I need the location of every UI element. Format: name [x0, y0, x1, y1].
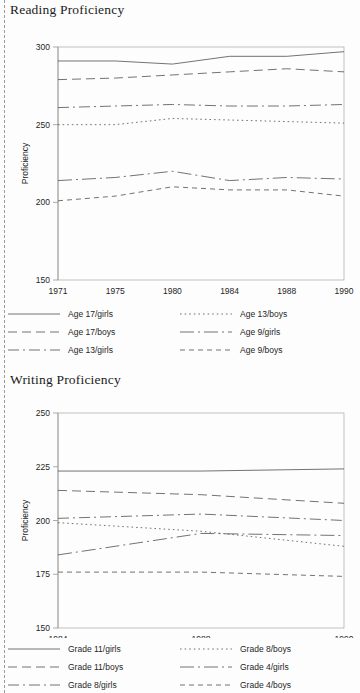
y-tick-label: 200 — [36, 197, 50, 207]
legend-key-line-icon — [8, 327, 60, 337]
y-tick-label: 250 — [36, 408, 50, 418]
y-tick-label: 225 — [36, 462, 50, 472]
legend-key-line-icon — [180, 309, 232, 319]
series-line-grade-4-boys — [58, 572, 344, 576]
legend-item: Age 13/boys — [180, 305, 352, 323]
y-axis-title: Proficiency — [20, 142, 30, 184]
legend-item: Age 9/girls — [180, 323, 352, 341]
series-line-age-17-boys — [58, 69, 344, 80]
legend-label: Grade 4/boys — [240, 680, 291, 690]
series-line-grade-8-girls — [58, 514, 344, 520]
legend-label: Age 17/boys — [68, 327, 115, 337]
line-chart-reading: 150200250300197119751980198419881990Prof… — [0, 18, 360, 303]
legend-key-line-icon — [180, 345, 232, 355]
legend-item: Age 13/girls — [8, 341, 180, 359]
legend-label: Grade 11/boys — [68, 662, 123, 672]
legend-key-line-icon — [180, 680, 232, 690]
line-chart-writing: 150175200225250198419881990Proficiency — [0, 388, 360, 638]
legend-key-line-icon — [8, 680, 60, 690]
legend-label: Age 13/boys — [240, 309, 287, 319]
legend-label: Age 13/girls — [68, 345, 113, 355]
plot-frame — [58, 47, 344, 280]
series-line-grade-11-boys — [58, 490, 344, 503]
series-line-grade-8-boys — [58, 523, 344, 547]
legend-item: Grade 4/girls — [180, 658, 352, 676]
series-line-age-9-girls — [58, 171, 344, 180]
x-tick-label: 1984 — [220, 286, 239, 296]
page-canvas: Reading Proficiency 15020025030019711975… — [0, 0, 360, 693]
legend-label: Grade 4/girls — [240, 662, 289, 672]
legend-item: Grade 11/girls — [8, 640, 180, 658]
figure-reading-proficiency: Reading Proficiency 15020025030019711975… — [0, 0, 360, 360]
figure-writing-proficiency: Writing Proficiency 15017520022525019841… — [0, 370, 360, 693]
x-tick-label: 1988 — [277, 286, 296, 296]
figure-title-writing: Writing Proficiency — [0, 370, 360, 388]
y-tick-label: 300 — [36, 42, 50, 52]
series-line-age-9-boys — [58, 187, 344, 201]
legend-key-line-icon — [8, 662, 60, 672]
legend-key-line-icon — [8, 644, 60, 654]
legend-item: Grade 4/boys — [180, 676, 352, 693]
legend-label: Age 9/girls — [240, 327, 280, 337]
y-tick-label: 150 — [36, 275, 50, 285]
y-tick-label: 250 — [36, 120, 50, 130]
series-line-grade-4-girls — [58, 533, 344, 555]
x-tick-label: 1980 — [163, 286, 182, 296]
series-line-age-17-girls — [58, 52, 344, 64]
y-tick-label: 175 — [36, 569, 50, 579]
legend-key-line-icon — [180, 327, 232, 337]
y-tick-label: 200 — [36, 516, 50, 526]
x-tick-label: 1971 — [49, 286, 68, 296]
legend-item: Age 17/boys — [8, 323, 180, 341]
legend-key-line-icon — [8, 309, 60, 319]
series-line-grade-11-girls — [58, 469, 344, 471]
legend-item: Age 9/boys — [180, 341, 352, 359]
legend-label: Age 9/boys — [240, 345, 283, 355]
legend-label: Age 17/girls — [68, 309, 113, 319]
legend-label: Grade 11/girls — [68, 644, 121, 654]
legend-writing: Grade 11/girlsGrade 8/boysGrade 11/boysG… — [0, 638, 360, 693]
legend-item: Grade 11/boys — [8, 658, 180, 676]
plot-frame — [58, 413, 344, 628]
legend-reading: Age 17/girlsAge 13/boysAge 17/boysAge 9/… — [0, 303, 360, 359]
legend-item: Age 17/girls — [8, 305, 180, 323]
series-line-age-13-girls — [58, 104, 344, 107]
legend-key-line-icon — [8, 345, 60, 355]
x-tick-label: 1975 — [106, 286, 125, 296]
x-tick-label: 1990 — [335, 286, 354, 296]
legend-label: Grade 8/boys — [240, 644, 291, 654]
figure-title-reading: Reading Proficiency — [0, 0, 360, 18]
legend-label: Grade 8/girls — [68, 680, 117, 690]
legend-item: Grade 8/girls — [8, 676, 180, 693]
y-tick-label: 150 — [36, 623, 50, 633]
legend-key-line-icon — [180, 662, 232, 672]
plot-area-writing: 150175200225250198419881990Proficiency — [0, 388, 360, 638]
y-axis-title: Proficiency — [20, 499, 30, 541]
legend-key-line-icon — [180, 644, 232, 654]
legend-item: Grade 8/boys — [180, 640, 352, 658]
series-line-age-13-boys — [58, 118, 344, 124]
plot-area-reading: 150200250300197119751980198419881990Prof… — [0, 18, 360, 303]
